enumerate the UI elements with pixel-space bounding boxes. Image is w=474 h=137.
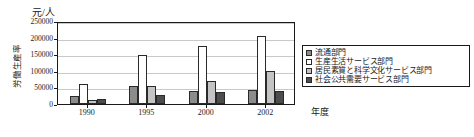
x-axis-title: 年度 xyxy=(311,105,329,118)
legend-swatch-icon xyxy=(306,59,312,65)
bar-series-layer xyxy=(58,23,294,104)
y-tick-label: 250000 xyxy=(31,18,54,26)
legend-item[interactable]: 居民素質と科学文化サービス部門 xyxy=(306,66,467,75)
legend-item[interactable]: 生産生活サービス部門 xyxy=(306,57,467,66)
x-tick-label: 1990 xyxy=(79,108,95,117)
bar xyxy=(189,91,198,104)
bar xyxy=(275,91,284,104)
x-tick-label: 2000 xyxy=(198,108,214,117)
bar xyxy=(216,92,225,104)
y-tick-label: 0 xyxy=(49,101,53,109)
legend-item[interactable]: 流通部門 xyxy=(306,48,467,57)
bar-group xyxy=(118,23,178,104)
chart-root: 元/人 労働生産率 050000100000150000200000250000… xyxy=(0,0,474,137)
bar-group xyxy=(237,23,297,104)
bar xyxy=(70,96,79,104)
x-tick-label: 1995 xyxy=(138,108,154,117)
x-axis-ticks: 1990199520002002 xyxy=(57,105,295,119)
bar xyxy=(266,71,275,104)
bar xyxy=(156,95,165,104)
bar xyxy=(88,100,97,104)
y-axis-ticks: 050000100000150000200000250000 xyxy=(0,22,57,105)
x-tick-label: 2002 xyxy=(257,108,273,117)
y-tick-label: 50000 xyxy=(34,85,53,93)
bar-group xyxy=(58,23,118,104)
legend-swatch-icon xyxy=(306,50,312,56)
y-tick-label: 200000 xyxy=(31,35,54,43)
bar xyxy=(257,36,266,104)
plot-area xyxy=(57,22,295,105)
bar xyxy=(147,86,156,104)
bar xyxy=(97,99,106,104)
bar xyxy=(248,90,257,104)
bar xyxy=(207,81,216,104)
y-tick-label: 150000 xyxy=(31,51,54,59)
legend-item-label: 居民素質と科学文化サービス部門 xyxy=(315,66,432,75)
legend-swatch-icon xyxy=(306,77,312,83)
legend-swatch-icon xyxy=(306,68,312,74)
bar xyxy=(138,55,147,104)
bar xyxy=(129,86,138,104)
y-tick-label: 100000 xyxy=(31,68,54,76)
bar-group xyxy=(177,23,237,104)
legend-item-label: 社会公共需要サービス部門 xyxy=(315,75,409,84)
bar xyxy=(198,46,207,104)
legend-item-label: 生産生活サービス部門 xyxy=(315,57,393,66)
legend: 流通部門 生産生活サービス部門 居民素質と科学文化サービス部門 社会公共需要サー… xyxy=(302,45,470,87)
bar xyxy=(79,84,88,104)
legend-item[interactable]: 社会公共需要サービス部門 xyxy=(306,75,467,84)
legend-item-label: 流通部門 xyxy=(315,48,346,57)
